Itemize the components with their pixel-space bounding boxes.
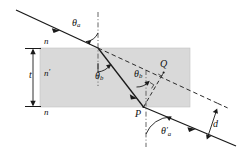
exit-ray [144,107,237,146]
label-theta-a: θa [72,18,80,29]
label-theta-b-upper: θb [95,71,103,82]
label-n-prime-inside: n′ [44,69,50,78]
point-p-marker [142,106,144,108]
label-displacement-d: d [213,119,218,129]
diagram-canvas [0,0,245,155]
dashed-ray-stub [218,104,230,110]
label-n-above: n [44,37,49,46]
label-theta-a-prime: θ′a [161,126,171,137]
label-n-below: n [44,108,49,117]
point-q-marker [163,72,165,74]
n-prime-mark: ′ [49,68,51,77]
incident-ray [16,10,98,48]
slab-body [40,48,190,107]
label-thickness-t: t [29,70,32,80]
thickness-dimension [25,49,41,107]
theta-a-subscript: a [77,21,80,28]
label-point-p: P [135,109,141,119]
refraction-diagram-figure: θa n t n′ n θb θb Q P θ′a d [0,0,245,155]
theta-b-lower-subscript: b [139,72,142,79]
label-point-q: Q [160,59,167,69]
label-theta-b-lower: θb [134,69,142,80]
theta-a-prime-subscript: a [168,130,171,137]
theta-b-upper-subscript: b [100,74,103,81]
angle-arc-theta-a [86,33,98,42]
